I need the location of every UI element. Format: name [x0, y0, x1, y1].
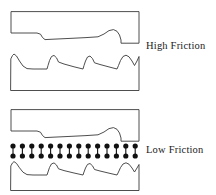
lubricant-molecule-dot-bottom	[114, 153, 119, 158]
lubricant-molecule-dot-top	[67, 143, 72, 148]
lubricant-molecule-dot-bottom	[76, 153, 81, 158]
lubricant-molecule-dot-top	[76, 143, 81, 148]
lubricant-molecule-dot-bottom	[10, 153, 15, 158]
lubricant-molecule-dot-top	[133, 143, 138, 148]
lubricant-molecule-dot-bottom	[86, 153, 91, 158]
lubricant-molecule-dot-top	[95, 143, 100, 148]
lubricant-molecule-dot-top	[104, 143, 109, 148]
lubricant-molecule-dot-bottom	[20, 153, 25, 158]
lubricant-molecule-dot-top	[123, 143, 128, 148]
lubricant-molecule-dot-bottom	[133, 153, 138, 158]
lubricant-molecule-dot-bottom	[57, 153, 62, 158]
lubricant-molecule-dot-bottom	[67, 153, 72, 158]
lubricant-molecule-dot-bottom	[104, 153, 109, 158]
lubricant-molecule-dot-top	[39, 143, 44, 148]
lubricant-molecule-dot-bottom	[39, 153, 44, 158]
lubricant-molecule-dot-bottom	[48, 153, 53, 158]
friction-diagram-svg	[0, 0, 216, 195]
friction-diagram: High Friction Low Friction	[0, 0, 216, 195]
lubricant-molecule-dot-bottom	[123, 153, 128, 158]
lubricant-molecule-dot-bottom	[29, 153, 34, 158]
lubricant-molecule-dot-top	[57, 143, 62, 148]
lubricant-molecule-dot-top	[114, 143, 119, 148]
lubricant-molecule-dot-top	[20, 143, 25, 148]
high-friction-label: High Friction	[146, 40, 205, 52]
lubricant-molecule-dot-bottom	[95, 153, 100, 158]
lubricant-molecule-dot-top	[86, 143, 91, 148]
lubricant-molecule-dot-top	[29, 143, 34, 148]
low-friction-label: Low Friction	[146, 144, 204, 156]
lubricant-molecule-dot-top	[48, 143, 53, 148]
lubricant-molecule-dot-top	[10, 143, 15, 148]
